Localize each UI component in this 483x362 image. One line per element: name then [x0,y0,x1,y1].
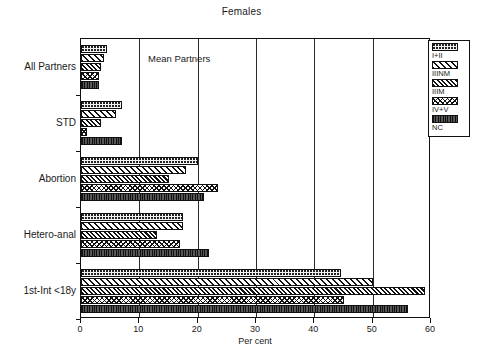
y-axis-category-labels: All PartnersSTDAbortionHetero-anal1st-In… [0,38,76,318]
x-tick-label-10: 10 [123,324,153,334]
y-tick-1 [76,151,81,152]
bar-NC-1 [81,137,122,145]
bar-IIIM-3 [81,231,157,239]
bar-I-II-3 [81,213,183,221]
bar-IV-V-4 [81,296,344,304]
x-tick-label-40: 40 [298,324,328,334]
bar-IV-V-3 [81,240,180,248]
y-axis-label-2: Abortion [39,173,76,184]
legend-swatch-IIINM [432,61,458,69]
bar-IIINM-1 [81,110,116,118]
mean-partners-annotation: Mean Partners [148,53,210,64]
bar-IV-V-2 [81,184,218,192]
bar-I-II-1 [81,101,122,109]
bar-I-II-0 [81,45,107,53]
y-tick-0 [76,95,81,96]
bar-IIIM-1 [81,119,101,127]
x-tick-label-0: 0 [65,324,95,334]
legend-label-IV-V: IV+V [431,105,467,114]
bar-IIINM-4 [81,278,373,286]
legend-label-I-II: I+II [431,51,467,60]
legend-item-IIINM: IIINM [431,61,467,78]
x-tick-label-20: 20 [182,324,212,334]
bar-IIIM-2 [81,175,169,183]
bar-IIINM-3 [81,222,183,230]
bar-IIINM-0 [81,54,104,62]
legend-label-NC: NC [431,123,467,132]
x-tick-label-60: 60 [415,324,445,334]
legend-swatch-NC [432,115,458,123]
legend-swatch-I-II [432,43,458,51]
plot-area [80,38,430,318]
bar-NC-3 [81,249,209,257]
y-axis-label-3: Hetero-anal [24,229,76,240]
bar-IV-V-0 [81,72,99,80]
legend: I+IIIIINMIIIMIV+VNC [428,40,470,137]
legend-label-IIIM: IIIM [431,87,467,96]
y-tick-3 [76,263,81,264]
legend-swatch-IIIM [432,79,458,87]
legend-item-IV-V: IV+V [431,97,467,114]
bar-chart-figure: Females All PartnersSTDAbortionHetero-an… [0,0,483,362]
x-tick-50 [372,318,373,323]
bar-IIIM-0 [81,63,101,71]
legend-item-NC: NC [431,115,467,132]
x-tick-label-30: 30 [240,324,270,334]
gridline-50 [373,39,374,317]
y-axis-label-0: All Partners [24,61,76,72]
chart-title: Females [0,6,483,17]
y-tick-2 [76,207,81,208]
x-tick-label-50: 50 [357,324,387,334]
x-tick-0 [80,318,81,323]
bar-IV-V-1 [81,128,87,136]
bar-I-II-2 [81,157,198,165]
x-tick-60 [430,318,431,323]
x-tick-30 [255,318,256,323]
x-tick-10 [138,318,139,323]
bar-NC-4 [81,305,408,313]
bar-NC-2 [81,193,204,201]
x-axis-label: Per cent [80,336,430,346]
y-axis-label-4: 1st-Int <18y [23,285,76,296]
legend-item-IIIM: IIIM [431,79,467,96]
bar-IIINM-2 [81,166,186,174]
bar-NC-0 [81,81,99,89]
bar-IIIM-4 [81,287,425,295]
x-tick-20 [197,318,198,323]
legend-label-IIINM: IIINM [431,69,467,78]
y-axis-label-1: STD [56,117,76,128]
legend-swatch-IV-V [432,97,458,105]
bar-I-II-4 [81,269,341,277]
x-tick-40 [313,318,314,323]
legend-item-I-II: I+II [431,43,467,60]
